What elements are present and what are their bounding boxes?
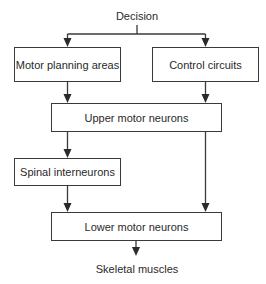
arrowhead-icon — [64, 203, 72, 212]
connector-lines — [0, 0, 266, 284]
arrowhead-icon — [64, 149, 72, 158]
skeletal-muscles-label: Skeletal muscles — [96, 263, 179, 275]
arrowhead-icon — [202, 38, 210, 47]
arrowhead-icon — [202, 203, 210, 212]
arrowhead-icon — [132, 247, 140, 256]
node-motor-planning-areas: Motor planning areas — [14, 47, 121, 82]
node-label: Control circuits — [169, 59, 242, 71]
node-label: Lower motor neurons — [85, 221, 189, 233]
node-spinal-interneurons: Spinal interneurons — [14, 158, 121, 186]
arrowhead-icon — [64, 94, 72, 103]
arrowhead-icon — [64, 38, 72, 47]
arrowhead-icon — [202, 94, 210, 103]
node-upper-motor-neurons: Upper motor neurons — [51, 103, 222, 132]
decision-label: Decision — [116, 10, 158, 22]
node-lower-motor-neurons: Lower motor neurons — [51, 212, 222, 241]
node-control-circuits: Control circuits — [152, 47, 259, 82]
node-label: Motor planning areas — [16, 59, 119, 71]
node-label: Upper motor neurons — [85, 112, 189, 124]
motor-control-flowchart: Decision Motor planning areas Control ci… — [0, 0, 266, 284]
node-label: Spinal interneurons — [20, 166, 115, 178]
